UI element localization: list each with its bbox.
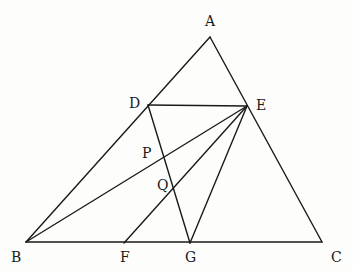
segment-GE	[190, 106, 247, 243]
label-B: B	[11, 249, 21, 265]
label-G: G	[185, 249, 196, 265]
label-D: D	[129, 95, 140, 111]
segment-BE	[26, 106, 247, 242]
segment-AC	[210, 37, 322, 242]
segment-FE	[124, 106, 247, 243]
triangle-figure: A B C D E F G P Q	[0, 0, 353, 271]
segment-AB	[26, 37, 210, 242]
point-labels: A B C D E F G P Q	[11, 13, 342, 265]
segments	[26, 37, 322, 243]
segment-DG	[148, 105, 190, 243]
label-E: E	[256, 97, 266, 113]
label-P: P	[142, 145, 151, 161]
label-C: C	[331, 249, 342, 265]
label-F: F	[120, 249, 130, 265]
label-Q: Q	[157, 177, 168, 193]
segment-DE	[148, 105, 247, 106]
label-A: A	[204, 13, 216, 29]
geometry-diagram: A B C D E F G P Q	[0, 0, 353, 271]
